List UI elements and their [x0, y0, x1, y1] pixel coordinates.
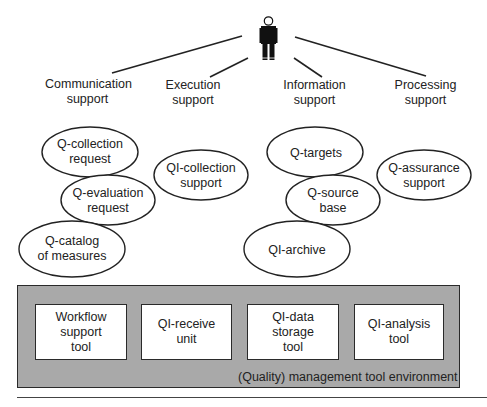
- tool-qi-analysis-tool: QI-analysis tool: [354, 304, 444, 360]
- connector-processing: [295, 37, 426, 76]
- label-processing-support: Processing support: [393, 78, 458, 108]
- ellipse-label-qi-collection-support: QI-collection support: [166, 161, 235, 191]
- line3: tool: [55, 340, 106, 355]
- ellipse-label-q-source-base: Q-source base: [307, 186, 358, 216]
- label-line1: Processing: [393, 78, 458, 93]
- label-line1: Communication: [45, 77, 130, 92]
- ellipse-label-q-assurance-support: Q-assurance support: [388, 161, 460, 191]
- label-information-support: Information support: [282, 78, 347, 108]
- label-line1: Information: [282, 78, 347, 93]
- environment-label: (Quality) management tool environment: [238, 370, 458, 384]
- line1: QI-data: [272, 310, 314, 325]
- person-icon: [260, 17, 278, 60]
- line1: Workflow: [55, 310, 106, 325]
- line2: request: [73, 201, 144, 216]
- line1: QI-archive: [268, 243, 326, 258]
- line1: Q-evaluation: [73, 186, 144, 201]
- line3: tool: [272, 340, 314, 355]
- ellipse-label-q-collection-request: Q-collection request: [57, 137, 123, 167]
- line2: support: [388, 176, 460, 191]
- connector-communication: [112, 36, 242, 73]
- line1: Q-targets: [290, 146, 342, 161]
- label-line2: support: [393, 93, 458, 108]
- line2: support: [166, 176, 235, 191]
- ellipse-label-qi-archive: QI-archive: [268, 243, 326, 258]
- line2: tool: [368, 332, 431, 347]
- line1: Q-assurance: [388, 161, 460, 176]
- line1: QI-collection: [166, 161, 235, 176]
- ellipse-label-q-evaluation-request: Q-evaluation request: [73, 186, 144, 216]
- line2: storage: [272, 325, 314, 340]
- label-line2: support: [282, 93, 347, 108]
- tool-qi-data-storage-tool: QI-data storage tool: [247, 304, 339, 360]
- line2: support: [55, 325, 106, 340]
- ellipse-label-q-targets: Q-targets: [290, 146, 342, 161]
- line1: QI-analysis: [368, 317, 431, 332]
- ellipse-label-q-catalog-of-measures: Q-catalog of measures: [38, 234, 107, 264]
- line1: QI-receive: [158, 317, 216, 332]
- connector-execution: [210, 58, 248, 77]
- line2: of measures: [38, 249, 107, 264]
- line1: Q-catalog: [38, 234, 107, 249]
- line1: Q-collection: [57, 137, 123, 152]
- tool-workflow-support-tool: Workflow support tool: [35, 304, 127, 360]
- line2: base: [307, 201, 358, 216]
- line2: unit: [158, 332, 216, 347]
- line2: request: [57, 152, 123, 167]
- line1: Q-source: [307, 186, 358, 201]
- label-communication-support: Communication support: [45, 77, 130, 107]
- label-execution-support: Execution support: [163, 78, 223, 108]
- connector-information: [294, 58, 322, 77]
- bottom-divider: [17, 397, 487, 398]
- label-line1: Execution: [163, 78, 223, 93]
- tool-qi-receive-unit: QI-receive unit: [141, 304, 232, 360]
- label-line2: support: [163, 93, 223, 108]
- label-line2: support: [45, 92, 130, 107]
